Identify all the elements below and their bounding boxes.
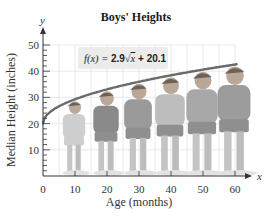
boy-figure-icon xyxy=(155,77,190,176)
y-axis-variable: y xyxy=(39,14,45,26)
y-axis-label: Median Height (inches) xyxy=(4,53,18,167)
x-tick-label: 50 xyxy=(198,183,210,195)
equation-label: f(x) = 2.9√x + 20.1 xyxy=(78,47,168,69)
y-tick-label: 10 xyxy=(28,144,40,156)
y-axis-arrow-icon xyxy=(40,27,46,34)
y-tick-label: 40 xyxy=(28,65,40,77)
x-axis-variable: x xyxy=(256,170,262,182)
boy-figure-icon xyxy=(93,91,123,176)
boy-figure-icon xyxy=(218,66,257,176)
y-tick-label: 20 xyxy=(28,118,40,130)
x-tick-label: 20 xyxy=(102,183,114,195)
x-axis-label: Age (months) xyxy=(106,195,172,209)
x-tick-label: 30 xyxy=(134,183,146,195)
x-tick-label: 0 xyxy=(40,183,46,195)
boys-heights-chart: Boys' Heights f(x) = 2.9√x + 20.1 x y 10… xyxy=(0,0,272,218)
x-tick-label: 60 xyxy=(230,183,242,195)
y-tick-label: 50 xyxy=(28,39,40,51)
x-tick-label: 40 xyxy=(166,183,178,195)
y-tick-label: 30 xyxy=(28,91,40,103)
equation-text: f(x) = 2.9√x + 20.1 xyxy=(84,53,167,65)
x-tick-label: 10 xyxy=(70,183,82,195)
chart-title: Boys' Heights xyxy=(101,10,172,24)
boy-illustrations xyxy=(63,66,257,176)
boy-figure-icon xyxy=(63,101,90,176)
